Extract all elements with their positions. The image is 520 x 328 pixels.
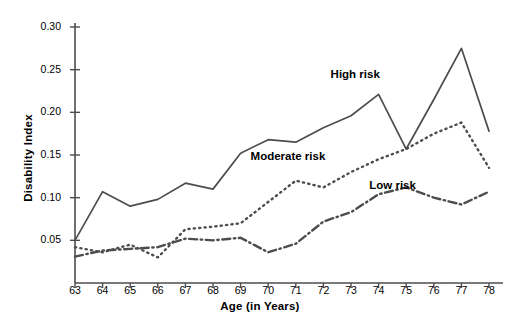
y-axis-tick-label: 0.30 — [27, 20, 61, 32]
x-axis-tick-label: 75 — [395, 284, 417, 296]
y-axis-tick-label: 0.15 — [27, 148, 61, 160]
y-axis-tick-label: 0.10 — [27, 191, 61, 203]
x-axis-tick-label: 72 — [312, 284, 334, 296]
x-axis-tick-label: 71 — [285, 284, 307, 296]
y-axis-tick-label: 0.20 — [27, 105, 61, 117]
series-line-low-risk — [75, 187, 489, 256]
x-axis-tick-label: 73 — [340, 284, 362, 296]
series-label-high-risk: High risk — [331, 68, 380, 80]
disability-index-line-chart: Disability Index Age (in Years) 0.050.10… — [0, 0, 520, 328]
x-axis-title: Age (in Years) — [0, 300, 520, 312]
x-axis-tick-label: 74 — [368, 284, 390, 296]
y-axis-tick-label: 0.25 — [27, 63, 61, 75]
x-axis-tick-label: 69 — [230, 284, 252, 296]
x-axis-tick-label: 77 — [450, 284, 472, 296]
x-axis-tick-label: 78 — [478, 284, 500, 296]
x-axis-tick-label: 63 — [64, 284, 86, 296]
series-line-moderate-risk — [75, 123, 489, 258]
x-axis-tick-label: 67 — [174, 284, 196, 296]
series-label-moderate-risk: Moderate risk — [251, 150, 326, 162]
x-axis-tick-label: 68 — [202, 284, 224, 296]
chart-plot-area — [0, 0, 520, 328]
y-axis-tick-label: 0.05 — [27, 233, 61, 245]
series-label-low-risk: Low risk — [369, 179, 416, 191]
x-axis-tick-label: 65 — [119, 284, 141, 296]
series-line-high-risk — [75, 48, 489, 240]
x-axis-tick-label: 64 — [92, 284, 114, 296]
x-axis-tick-label: 70 — [257, 284, 279, 296]
x-axis-tick-label: 76 — [423, 284, 445, 296]
x-axis-tick-label: 66 — [147, 284, 169, 296]
